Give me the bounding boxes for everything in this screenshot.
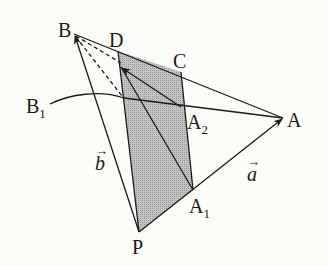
label-P: P [132,237,143,257]
label-B1: B1 [26,96,46,116]
arc-B1 [50,94,124,104]
label-C: C [173,51,186,71]
label-B: B [58,20,71,40]
label-A2: A2 [187,112,208,132]
label-D: D [109,30,123,50]
vector-b-label: →b [95,152,105,175]
vector-a-label: →a [247,163,257,186]
label-A1: A1 [189,196,210,216]
geometry-figure [0,0,328,266]
label-A: A [287,110,301,130]
diagram: B D C A A2 A1 P B1 →b →a [0,0,328,266]
